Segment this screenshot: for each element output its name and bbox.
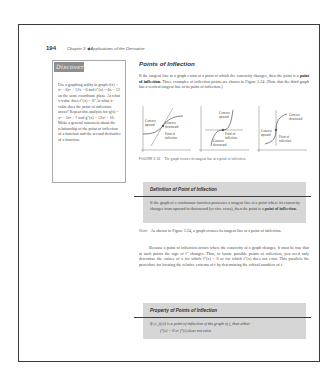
g1-poi-2: inflection <box>165 136 178 140</box>
body-paragraph: Because a point of inflection occurs whe… <box>139 245 309 267</box>
note-text: As shown in Figure 3.24, a graph crosses… <box>151 228 282 233</box>
figure-label: FIGURE 3.24 <box>139 157 160 161</box>
page-header: 194 Chapter 3 ◆ Applications of the Deri… <box>46 45 145 53</box>
g2-upper-2: upward <box>219 115 229 119</box>
intro-paragraph: If the tangent line to a graph exists at… <box>139 73 309 90</box>
section-header: Points of Inflection <box>139 60 309 69</box>
discovery-heading: Discovery <box>54 62 84 72</box>
figure-caption-text: The graph crosses its tangent line at a … <box>164 157 246 161</box>
definition-box: Definition of Point of Inflection If the… <box>143 182 306 223</box>
graph-1 <box>141 106 191 152</box>
definition-body: If the graph of a continuous function po… <box>150 200 300 211</box>
discovery-body: Use a graphing utility to graph f(x) = x… <box>58 82 122 142</box>
property-rule <box>134 317 311 318</box>
g3-lower-2: upward <box>261 133 271 137</box>
discovery-sidebar: Discovery Use a graphing utility to grap… <box>52 60 126 183</box>
g2-lower-2: downward <box>213 143 227 147</box>
g3-upper-2: downward <box>289 117 303 121</box>
property-formula: f″(c) = 0 or f″(c) does not exist. <box>160 328 212 333</box>
g1-lower-2: downward <box>165 125 179 129</box>
chapter-title: Chapter 3 ◆ Applications of the Derivati… <box>67 46 145 51</box>
g1-upper-2: upward <box>145 123 155 127</box>
page-number: 194 <box>46 45 56 51</box>
intro-text-cont: Three examples of inflection points are … <box>139 79 309 90</box>
property-body: If (c, f(c)) is a point of inflection of… <box>150 321 300 327</box>
property-title: Property of Points of Inflection <box>150 308 217 313</box>
note-label: Note <box>139 228 148 233</box>
definition-term: point of inflection. <box>265 206 297 211</box>
inflection-graphs: Concave upward Concave downward Point of… <box>139 104 309 156</box>
definition-title: Definition of Point of Inflection <box>150 187 217 192</box>
figure-3-24: Concave upward Concave downward Point of… <box>139 104 309 156</box>
figure-caption: FIGURE 3.24The graph crosses its tangent… <box>139 157 309 163</box>
note-paragraph: NoteAs shown in Figure 3.24, a graph cro… <box>139 228 309 234</box>
g2-poi-2: inflection <box>225 136 238 140</box>
section-title: Points of Inflection <box>139 60 309 69</box>
definition-rule <box>134 196 311 197</box>
g3-poi-2: inflection <box>279 139 292 143</box>
intro-text: If the tangent line to a graph exists at… <box>139 73 300 78</box>
property-box: Property of Points of Inflection If (c, … <box>143 303 306 339</box>
